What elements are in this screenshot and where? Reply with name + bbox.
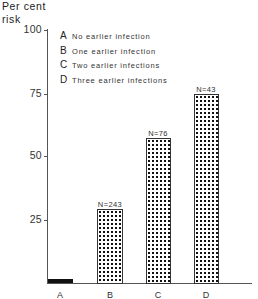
x-category-label: A	[50, 290, 70, 299]
legend-label: One earlier infection	[72, 47, 156, 56]
legend-label: Three earlier infections	[72, 76, 168, 85]
y-tick-label: 75	[4, 87, 42, 99]
y-tick-50	[44, 156, 47, 157]
bar-d	[194, 94, 219, 284]
bar-a	[48, 279, 73, 283]
legend-label: Two earlier infections	[72, 61, 160, 70]
n-label-c: N=76	[140, 129, 176, 138]
legend-label: No earlier infection	[72, 32, 151, 41]
y-tick-25	[44, 220, 47, 221]
y-tick-label: 25	[4, 213, 42, 225]
n-label-d: N=43	[188, 85, 224, 94]
y-axis-line	[47, 29, 48, 284]
y-tick-100	[44, 30, 47, 31]
x-category-label: D	[196, 290, 216, 299]
legend-item: CTwo earlier infections	[60, 58, 168, 73]
bar-b	[97, 209, 123, 284]
y-tick-75	[44, 94, 47, 95]
legend-key: D	[60, 73, 72, 87]
y-axis-title-line1: Per cent	[2, 0, 46, 13]
bar-c	[146, 138, 171, 284]
legend: ANo earlier infection BOne earlier infec…	[60, 29, 168, 87]
legend-key: A	[60, 29, 72, 43]
legend-item: BOne earlier infection	[60, 44, 168, 59]
legend-key: B	[60, 44, 72, 58]
legend-key: C	[60, 58, 72, 72]
n-label-b: N=243	[92, 200, 128, 209]
y-tick-label: 50	[4, 149, 42, 161]
legend-item: ANo earlier infection	[60, 29, 168, 44]
x-category-label: B	[100, 290, 120, 299]
legend-item: DThree earlier infections	[60, 73, 168, 88]
x-category-label: C	[148, 290, 168, 299]
y-tick-label: 100	[4, 23, 42, 35]
